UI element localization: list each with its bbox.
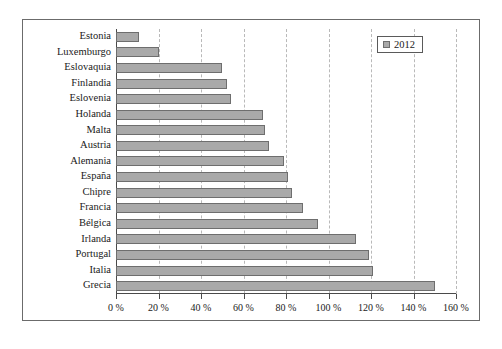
category-label-espa-a: España [81,168,111,184]
category-label-holanda: Holanda [75,106,111,122]
bar-italia [116,266,373,276]
bar-espa-a [116,172,288,182]
bar-francia [116,203,303,213]
bar-row: Irlanda [116,232,456,248]
bar-row: Francia [116,200,456,216]
tick-label-80: 80 % [276,302,297,313]
bar-row: España [116,169,456,185]
bar-portugal [116,250,369,260]
bar-austria [116,141,269,151]
bar-row: Chipre [116,185,456,201]
category-label-francia: Francia [80,199,112,215]
tick-label-40: 40 % [191,302,212,313]
category-label-b-lgica: Bélgica [79,215,111,231]
tick-20 [159,294,160,299]
bar-row: Bélgica [116,216,456,232]
tick-0 [116,294,117,299]
bar-chipre [116,188,292,198]
bar-row: Alemania [116,154,456,170]
legend-swatch-icon [383,41,390,48]
bar-luxemburgo [116,47,159,57]
category-label-luxemburgo: Luxemburgo [57,44,111,60]
category-label-portugal: Portugal [75,246,111,262]
figure-caption [62,338,462,349]
tick-label-20: 20 % [148,302,169,313]
bar-malta [116,125,265,135]
tick-label-0: 0 % [108,302,124,313]
plot-area: EstoniaLuxemburgoEslovaquiaFinlandiaEslo… [116,29,456,294]
bar-grecia [116,281,435,291]
bar-irlanda [116,234,356,244]
category-label-eslovenia: Eslovenia [70,90,111,106]
tick-label-100: 100 % [316,302,342,313]
bar-row: Finlandia [116,76,456,92]
bar-row: Portugal [116,247,456,263]
tick-label-60: 60 % [233,302,254,313]
category-label-austria: Austria [80,137,111,153]
bar-row: Eslovenia [116,91,456,107]
bar-alemania [116,156,284,166]
tick-60 [244,294,245,299]
bar-b-lgica [116,219,318,229]
bar-row: Eslovaquia [116,60,456,76]
bar-rows: EstoniaLuxemburgoEslovaquiaFinlandiaEslo… [116,29,456,294]
bar-row: Grecia [116,278,456,294]
category-label-eslovaquia: Eslovaquia [64,59,111,75]
category-label-alemania: Alemania [70,153,111,169]
tick-80 [286,294,287,299]
chart-legend: 2012 [377,36,423,53]
category-label-malta: Malta [87,122,112,138]
category-label-chipre: Chipre [82,184,111,200]
tick-label-140: 140 % [401,302,427,313]
legend-label: 2012 [394,39,415,50]
tick-140 [414,294,415,299]
bar-row: Holanda [116,107,456,123]
tick-120 [371,294,372,299]
bar-finlandia [116,79,227,89]
category-label-estonia: Estonia [80,28,112,44]
tick-40 [201,294,202,299]
category-label-grecia: Grecia [83,277,111,293]
bar-row: Austria [116,138,456,154]
tick-label-120: 120 % [358,302,384,313]
category-label-irlanda: Irlanda [81,231,111,247]
tick-label-160: 160 % [443,302,469,313]
tick-160 [456,294,457,299]
tick-100 [329,294,330,299]
bar-holanda [116,110,263,120]
bar-estonia [116,32,139,42]
bar-eslovaquia [116,63,222,73]
category-label-italia: Italia [89,262,111,278]
chart-frame: EstoniaLuxemburgoEslovaquiaFinlandiaEslo… [22,19,480,321]
bar-row: Italia [116,263,456,279]
category-label-finlandia: Finlandia [71,75,111,91]
gridline-160 [456,29,457,294]
bar-eslovenia [116,94,231,104]
bar-row: Malta [116,123,456,139]
